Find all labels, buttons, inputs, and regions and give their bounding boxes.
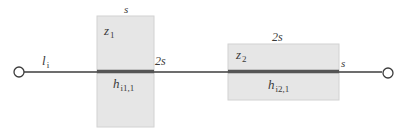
zone-2-height-label: s — [341, 58, 345, 69]
end-node-icon — [383, 68, 393, 78]
zone-1-segment-sub: i1,1 — [121, 83, 135, 93]
zone-1-name: z1 — [104, 24, 115, 40]
start-node-icon — [14, 67, 24, 77]
zone-2-segment-main: h — [268, 77, 275, 92]
diagram-graphics — [0, 0, 403, 138]
zone-1-height-label: 2s — [155, 55, 166, 67]
zone-2-segment-label: hi2,1 — [268, 78, 289, 94]
zone-1-width-label: s — [124, 4, 128, 15]
zone-1-name-sub: 1 — [110, 30, 115, 40]
diagram-canvas: li s z1 2s hi1,1 2s z2 s hi2,1 — [0, 0, 403, 138]
link-label: li — [42, 54, 49, 70]
zone-2-width-label: 2s — [272, 31, 283, 43]
zone-1-segment-main: h — [113, 76, 120, 91]
zone-2-name-sub: 2 — [242, 54, 247, 64]
zone-2-segment-sub: i2,1 — [276, 84, 290, 94]
link-label-main: l — [42, 53, 46, 68]
zone-2-name-main: z — [236, 47, 241, 62]
zone-1-segment-label: hi1,1 — [113, 77, 134, 93]
zone-2-name: z2 — [236, 48, 247, 64]
zone-1-name-main: z — [104, 23, 109, 38]
link-label-sub: i — [47, 60, 50, 70]
